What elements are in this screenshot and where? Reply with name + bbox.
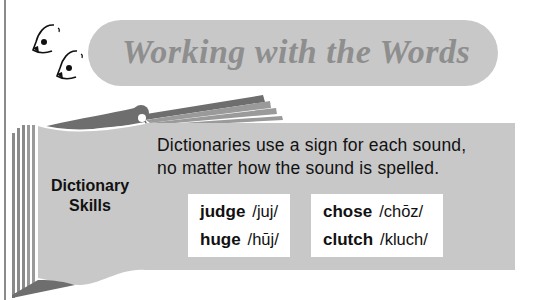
instructions-line1: Dictionaries use a sign for each sound,: [157, 134, 517, 157]
instructions-line2: no matter how the sound is spelled.: [157, 157, 517, 180]
section-label: Dictionary Skills: [38, 176, 142, 216]
section-label-line1: Dictionary: [38, 176, 142, 196]
example-box-left: judge/juj/ huge/hūj/: [188, 194, 290, 257]
example-box-right: chose/chōz/ clutch/kluch/: [311, 194, 443, 257]
example-word: judge: [200, 202, 245, 221]
example-pronunciation: /hūj/: [248, 230, 279, 248]
example-row: clutch/kluch/: [323, 230, 428, 250]
section-label-line2: Skills: [38, 196, 142, 216]
example-word: clutch: [323, 230, 373, 249]
page-title: Working with the Words: [122, 24, 470, 80]
example-pronunciation: /chōz/: [379, 202, 423, 220]
example-row: judge/juj/: [200, 202, 278, 222]
example-row: huge/hūj/: [200, 230, 279, 250]
example-pronunciation: /juj/: [252, 202, 278, 220]
instructions-text: Dictionaries use a sign for each sound, …: [157, 134, 517, 180]
example-row: chose/chōz/: [323, 202, 423, 222]
example-pronunciation: /kluch/: [380, 230, 428, 248]
example-word: chose: [323, 202, 372, 221]
example-word: huge: [200, 230, 241, 249]
mascot-birds-icon: [30, 20, 90, 85]
